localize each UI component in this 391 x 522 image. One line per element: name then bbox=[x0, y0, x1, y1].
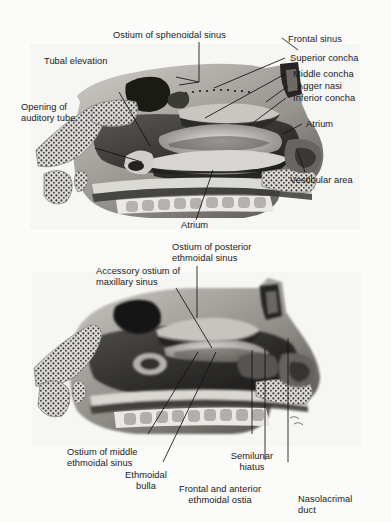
label-ostium-of-middle-ethmoidal-sinus: Ostium of middle ethmoidal sinus bbox=[67, 447, 138, 468]
label-agger-nasi: Agger nasi bbox=[297, 81, 342, 92]
anatomy-figure-page: Ostium of sphenoidal sinus Frontal sinus… bbox=[0, 0, 391, 522]
label-frontal-and-anterior-ethmoidal-ostia: Frontal and anterior ethmoidal ostia bbox=[150, 484, 290, 505]
label-atrium-upper-right: Atrium bbox=[306, 119, 333, 130]
label-semilunar-hiatus: Semilunar hiatus bbox=[214, 451, 290, 472]
label-accessory-ostium-of-maxillary-sinus: Accessory ostium of maxillary sinus bbox=[96, 266, 180, 287]
label-inferior-concha: Inferior concha bbox=[293, 93, 355, 104]
label-middle-concha: Middle concha bbox=[293, 69, 354, 80]
label-nasolacrimal-duct: Nasolacrimal duct bbox=[298, 494, 352, 515]
label-tubal-elevation: Tubal elevation bbox=[44, 56, 107, 67]
label-frontal-sinus: Frontal sinus bbox=[288, 34, 342, 45]
label-atrium-bottom: Atrium bbox=[181, 220, 208, 231]
label-ostium-of-sphenoidal-sinus: Ostium of sphenoidal sinus bbox=[113, 30, 226, 41]
label-superior-concha: Superior concha bbox=[290, 53, 358, 64]
label-vestibular-area: Vestibular area bbox=[290, 175, 353, 186]
label-ostium-of-posterior-ethmoidal-sinus: Ostium of posterior ethmoidal sinus bbox=[172, 242, 251, 263]
label-opening-of-auditory-tube: Opening of auditory tube bbox=[21, 102, 75, 123]
lower-figure-image bbox=[32, 272, 362, 447]
